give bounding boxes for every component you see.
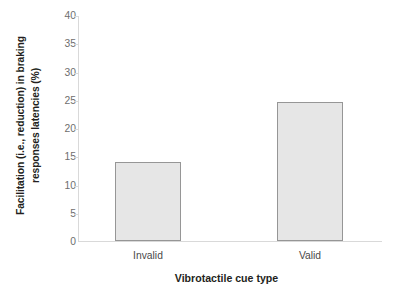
x-axis-category-label: Valid (299, 250, 321, 261)
y-axis-tick-label: 25 (50, 96, 76, 106)
bar-invalid (115, 162, 181, 241)
y-axis-tick-mark (74, 186, 78, 187)
y-axis-tick-mark (74, 44, 78, 45)
y-axis-tick-mark (74, 214, 78, 215)
y-axis-tick-label: 15 (50, 152, 76, 162)
y-axis-tick-label: 35 (50, 39, 76, 49)
y-axis-tick-mark (74, 129, 78, 130)
y-axis-line (78, 16, 79, 242)
y-axis-tick-label: 0 (50, 237, 76, 247)
y-axis-tick-mark (74, 16, 78, 17)
plot-area (78, 16, 382, 242)
y-axis-tick-labels: 4035302520151050 (48, 0, 76, 296)
y-axis-tick-label: 30 (50, 68, 76, 78)
bar-chart-figure: Facilitation (i.e., reduction) in brakin… (0, 0, 409, 296)
y-axis-tick-label: 5 (50, 209, 76, 219)
y-axis-tick-mark (74, 73, 78, 74)
y-axis-tick-mark (74, 101, 78, 102)
y-axis-tick-mark (74, 157, 78, 158)
y-axis-tick-label: 20 (50, 124, 76, 134)
y-axis-tick-label: 10 (50, 181, 76, 191)
x-axis-line (78, 241, 382, 242)
y-axis-title-line1: Facilitation (i.e., reduction) in brakin… (15, 36, 26, 215)
bar-valid (277, 102, 343, 241)
y-axis-title-line2: responses latencies (%) (28, 36, 43, 215)
x-axis-category-label: Invalid (133, 250, 163, 261)
y-axis-tick-label: 40 (50, 11, 76, 21)
x-axis-title: Vibrotactile cue type (0, 272, 409, 284)
